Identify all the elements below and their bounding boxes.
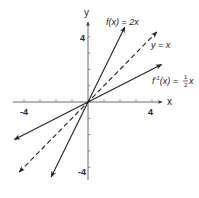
series-label-identity: y = x [150,40,171,50]
f-inverse-frac-num: 1 [184,74,188,80]
function-inverse-graph: x y -4 4 4 -4 f(x) = 2x y = x f-1(x) = 1… [0,0,199,198]
series-label-f: f(x) = 2x [106,17,139,27]
f-inverse-label-mid: (x) = [160,76,178,86]
y-axis-label: y [84,7,89,18]
x-tick-label-neg4: -4 [20,107,28,117]
y-tick-label-4: 4 [80,33,85,43]
x-axis-label: x [167,96,172,107]
series-label-f-inverse: f-1(x) = [152,75,178,86]
axes [13,22,162,180]
x-tick-label-4: 4 [148,107,153,117]
y-tick-label-neg4: -4 [78,167,86,177]
f-inverse-label-suffix: x [188,76,194,86]
f-inverse-frac-den: 2 [184,82,188,88]
